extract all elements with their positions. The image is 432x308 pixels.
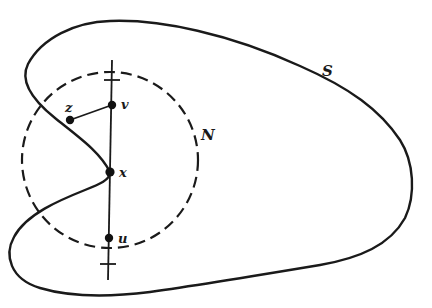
point-v [108,101,116,109]
label-z: z [64,100,73,115]
label-u: u [118,231,127,246]
label-x: x [118,165,127,180]
curve-s [10,21,413,296]
segment-z-v [70,105,112,120]
label-s: S [322,62,333,80]
label-n: N [200,126,216,144]
label-v: v [121,97,129,112]
topology-diagram: v z x u N S [0,0,432,308]
point-z [66,116,74,124]
point-u [105,234,113,242]
point-x [105,167,114,176]
